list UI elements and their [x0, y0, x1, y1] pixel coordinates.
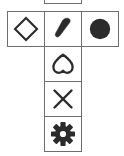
cone-icon: [50, 16, 76, 42]
shape-grid: [0, 0, 124, 156]
grid-cell-clipped[interactable]: [44, 0, 82, 4]
grid-cell-heart[interactable]: [44, 46, 82, 82]
circle-icon: [87, 16, 113, 42]
diamond-icon: [13, 16, 39, 42]
close-x-icon: [50, 86, 76, 112]
grid-cell-circle[interactable]: [81, 11, 119, 47]
gear-icon: [50, 121, 76, 147]
grid-cell-cone[interactable]: [44, 11, 82, 47]
grid-cell-gear[interactable]: [44, 116, 82, 152]
heart-icon: [50, 51, 76, 77]
grid-cell-close-x[interactable]: [44, 81, 82, 117]
grid-cell-diamond[interactable]: [7, 11, 45, 47]
